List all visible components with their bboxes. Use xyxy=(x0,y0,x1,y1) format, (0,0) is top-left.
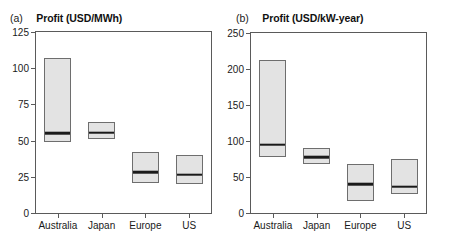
y-axis-tick xyxy=(31,104,36,105)
panel-a-header: (a) Profit (USD/MWh) xyxy=(10,8,122,26)
figure-profit-comparison: (a) Profit (USD/MWh) 0255075100125Austra… xyxy=(0,0,455,241)
y-axis-label: 125 xyxy=(12,27,29,38)
y-axis-tick xyxy=(246,105,251,106)
median-line xyxy=(89,132,114,135)
y-axis-label: 250 xyxy=(227,28,244,39)
panel-b: (b) Profit (USD/kW-year) 050100150200250… xyxy=(228,0,455,241)
median-line xyxy=(304,156,329,159)
x-axis-label-australia: Australia xyxy=(253,220,292,231)
box-europe-a xyxy=(132,152,159,182)
box-us-b xyxy=(391,159,418,194)
box-australia-b xyxy=(259,60,286,157)
median-line xyxy=(348,183,373,186)
x-axis-tick xyxy=(189,213,190,218)
y-axis-tick xyxy=(246,213,251,214)
y-axis-tick xyxy=(31,213,36,214)
y-axis-label: 0 xyxy=(23,208,29,219)
panel-b-header: (b) Profit (USD/kW-year) xyxy=(236,8,363,26)
x-axis-label-us: US xyxy=(397,220,411,231)
box-us-a xyxy=(176,155,203,184)
x-axis-tick xyxy=(145,213,146,218)
box-australia-a xyxy=(44,58,71,142)
panel-a-title: Profit (USD/MWh) xyxy=(36,12,122,24)
box-japan-b xyxy=(303,148,330,164)
panel-a: (a) Profit (USD/MWh) 0255075100125Austra… xyxy=(0,0,228,241)
panel-b-title: Profit (USD/kW-year) xyxy=(262,12,363,24)
box-japan-a xyxy=(88,122,115,139)
y-axis-tick xyxy=(31,177,36,178)
plot-area-a: 0255075100125AustraliaJapanEuropeUS xyxy=(35,31,212,214)
y-axis-tick xyxy=(31,68,36,69)
y-axis-label: 100 xyxy=(227,136,244,147)
y-axis-label: 200 xyxy=(227,64,244,75)
median-line xyxy=(260,144,285,147)
median-line xyxy=(392,185,417,188)
x-axis-label-australia: Australia xyxy=(38,220,77,231)
y-axis-label: 75 xyxy=(18,99,29,110)
y-axis-label: 50 xyxy=(233,172,244,183)
y-axis-tick xyxy=(246,33,251,34)
y-axis-label: 0 xyxy=(238,208,244,219)
y-axis-label: 100 xyxy=(12,63,29,74)
plot-area-b: 050100150200250AustraliaJapanEuropeUS xyxy=(250,32,427,214)
x-axis-label-us: US xyxy=(182,220,196,231)
x-axis-label-europe: Europe xyxy=(129,220,161,231)
panel-a-letter: (a) xyxy=(10,12,23,24)
y-axis-label: 25 xyxy=(18,171,29,182)
x-axis-tick xyxy=(317,213,318,218)
median-line xyxy=(133,171,158,174)
box-europe-b xyxy=(347,164,374,201)
y-axis-tick xyxy=(246,141,251,142)
y-axis-tick xyxy=(246,177,251,178)
x-axis-tick xyxy=(58,213,59,218)
x-axis-label-japan: Japan xyxy=(303,220,330,231)
y-axis-label: 150 xyxy=(227,100,244,111)
y-axis-tick xyxy=(246,69,251,70)
x-axis-label-japan: Japan xyxy=(88,220,115,231)
y-axis-label: 50 xyxy=(18,135,29,146)
x-axis-tick xyxy=(273,213,274,218)
x-axis-tick xyxy=(404,213,405,218)
x-axis-tick xyxy=(360,213,361,218)
x-axis-tick xyxy=(102,213,103,218)
y-axis-tick xyxy=(31,32,36,33)
x-axis-label-europe: Europe xyxy=(344,220,376,231)
panel-b-letter: (b) xyxy=(236,12,249,24)
median-line xyxy=(45,132,70,135)
y-axis-tick xyxy=(31,141,36,142)
median-line xyxy=(177,174,202,177)
